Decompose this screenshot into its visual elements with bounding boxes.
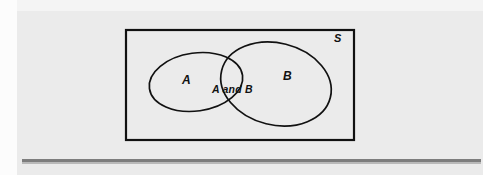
set-a-label: A	[182, 74, 191, 86]
universal-set-label: S	[334, 33, 341, 44]
set-b-label: B	[283, 70, 292, 82]
horizontal-divider-rule-shadow	[22, 162, 481, 164]
set-a-ellipse	[145, 47, 246, 118]
figure-canvas: S A B A and B	[0, 0, 483, 175]
intersection-label: A and B	[212, 84, 253, 95]
